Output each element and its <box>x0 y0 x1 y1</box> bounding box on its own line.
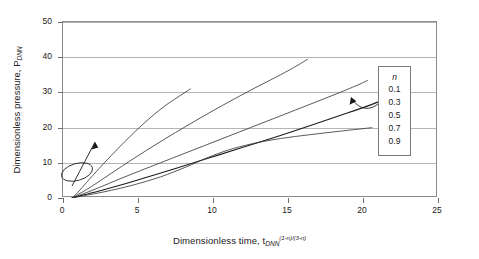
x-tick-10 <box>213 198 214 203</box>
x-tick-label-15: 15 <box>275 206 299 214</box>
curve-n-0.5 <box>72 80 368 198</box>
x-tick-label-20: 20 <box>350 206 374 214</box>
x-tick-5 <box>138 198 139 203</box>
y-tick-label-40: 40 <box>26 52 52 60</box>
x-tick-label-0: 0 <box>50 206 74 214</box>
y-tick-label-10: 10 <box>26 158 52 166</box>
x-tick-label-10: 10 <box>200 206 224 214</box>
x-axis-title: Dimensionless time, tDNN(1-n)/(3-n) <box>0 234 479 247</box>
y-axis-title-subscript: DNN <box>16 47 23 61</box>
x-tick-label-5: 5 <box>125 206 149 214</box>
x-axis-title-subscript: DNN <box>265 240 279 247</box>
legend-items: 0.10.30.50.70.9 <box>389 83 401 148</box>
x-axis-title-text: Dimensionless time, t <box>173 235 265 246</box>
legend-item-0.3[interactable]: 0.3 <box>389 96 401 109</box>
legend-item-0.7[interactable]: 0.7 <box>389 122 401 135</box>
curve-n-0.3 <box>72 59 308 198</box>
y-tick-label-20: 20 <box>26 123 52 131</box>
x-axis-title-superscript: (1-n)/(3-n) <box>279 234 306 241</box>
x-tick-20 <box>363 198 364 203</box>
legend-item-0.5[interactable]: 0.5 <box>389 109 401 122</box>
x-tick-0 <box>63 198 64 203</box>
y-tick-label-50: 50 <box>26 17 52 25</box>
x-tick-25 <box>438 198 439 203</box>
curve-n-0.7 <box>72 100 383 198</box>
legend-box[interactable]: n 0.10.30.50.70.9 <box>378 66 411 156</box>
x-tick-15 <box>288 198 289 203</box>
legend-item-0.9[interactable]: 0.9 <box>389 135 401 148</box>
y-tick-label-0: 0 <box>26 193 52 201</box>
y-axis-title-text: Dimensionless pressure, P <box>11 61 22 174</box>
legend-item-0.1[interactable]: 0.1 <box>389 83 401 96</box>
chart-figure: 01020304050 0510152025 n 0.10.30.50.70.9… <box>0 0 479 259</box>
curve-n-0.9 <box>72 128 372 198</box>
y-axis-title: Dimensionless pressure, PDNN <box>11 15 23 205</box>
y-tick-label-30: 30 <box>26 87 52 95</box>
x-tick-label-25: 25 <box>425 206 449 214</box>
legend-title: n <box>392 72 397 83</box>
